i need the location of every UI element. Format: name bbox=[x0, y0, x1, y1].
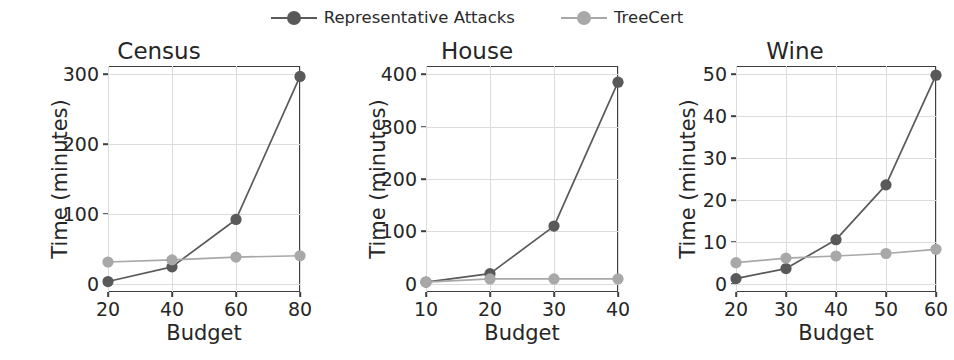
x-tick-mark bbox=[425, 292, 427, 297]
legend-dot-representative-attacks bbox=[287, 11, 301, 25]
plot-area: 010020030040010203040BudgetTime (minutes… bbox=[426, 66, 618, 292]
series-line-treecert bbox=[108, 256, 300, 262]
x-tick-mark bbox=[299, 292, 301, 297]
data-point-representative-attacks bbox=[102, 276, 113, 287]
series-line-representative-attacks bbox=[108, 76, 300, 281]
x-tick-mark bbox=[735, 292, 737, 297]
x-tick-label: 10 bbox=[414, 300, 438, 319]
series-layer bbox=[426, 66, 618, 292]
x-tick-label: 60 bbox=[224, 300, 248, 319]
x-tick-label: 30 bbox=[542, 300, 566, 319]
x-tick-mark bbox=[489, 292, 491, 297]
y-axis-label: Time (minutes) bbox=[49, 66, 71, 292]
y-tick-label: 40 bbox=[703, 107, 727, 126]
legend-marker-representative-attacks bbox=[271, 10, 317, 26]
x-tick-label: 20 bbox=[724, 300, 748, 319]
legend-item-representative-attacks: Representative Attacks bbox=[271, 10, 515, 26]
x-axis-label: Budget bbox=[736, 322, 936, 344]
data-point-treecert bbox=[230, 252, 241, 263]
chart-panel-wine: Wine 010203040502030405060BudgetTime (mi… bbox=[636, 34, 954, 360]
x-tick-mark bbox=[885, 292, 887, 297]
x-tick-label: 40 bbox=[160, 300, 184, 319]
y-tick-label: 20 bbox=[703, 190, 727, 209]
data-point-treecert bbox=[780, 253, 791, 264]
data-point-treecert bbox=[166, 254, 177, 265]
x-tick-label: 50 bbox=[874, 300, 898, 319]
data-point-representative-attacks bbox=[880, 179, 891, 190]
data-point-treecert bbox=[730, 257, 741, 268]
data-point-treecert bbox=[612, 273, 623, 284]
gridline-vertical bbox=[936, 66, 937, 292]
data-point-representative-attacks bbox=[780, 263, 791, 274]
plot-area: 010203040502030405060BudgetTime (minutes… bbox=[736, 66, 936, 292]
data-point-representative-attacks bbox=[930, 70, 941, 81]
series-layer bbox=[736, 66, 936, 292]
plot-area: 010020030020406080BudgetTime (minutes) bbox=[108, 66, 300, 292]
data-point-treecert bbox=[484, 273, 495, 284]
data-point-representative-attacks bbox=[294, 71, 305, 82]
data-point-representative-attacks bbox=[612, 77, 623, 88]
y-tick-label: 0 bbox=[715, 274, 727, 293]
x-tick-mark bbox=[107, 292, 109, 297]
series-line-representative-attacks bbox=[426, 82, 618, 282]
chart-panel-house: House 010020030040010203040BudgetTime (m… bbox=[318, 34, 636, 360]
data-point-treecert bbox=[420, 276, 431, 287]
x-tick-mark bbox=[785, 292, 787, 297]
data-point-treecert bbox=[930, 244, 941, 255]
x-tick-mark bbox=[235, 292, 237, 297]
legend-label-representative-attacks: Representative Attacks bbox=[324, 10, 515, 26]
x-tick-label: 60 bbox=[924, 300, 948, 319]
x-tick-mark bbox=[835, 292, 837, 297]
legend-dot-treecert bbox=[577, 11, 591, 25]
series-line-treecert bbox=[426, 279, 618, 282]
y-tick-label: 50 bbox=[703, 65, 727, 84]
x-tick-mark bbox=[171, 292, 173, 297]
data-point-treecert bbox=[548, 273, 559, 284]
series-line-representative-attacks bbox=[736, 75, 936, 278]
y-tick-label: 0 bbox=[405, 274, 417, 293]
data-point-representative-attacks bbox=[548, 220, 559, 231]
x-tick-mark bbox=[935, 292, 937, 297]
x-tick-label: 40 bbox=[824, 300, 848, 319]
y-axis-label: Time (minutes) bbox=[677, 66, 699, 292]
data-point-treecert bbox=[102, 256, 113, 267]
x-tick-label: 30 bbox=[774, 300, 798, 319]
x-axis-label: Budget bbox=[108, 322, 300, 344]
panel-title-census: Census bbox=[0, 38, 318, 64]
panel-title-house: House bbox=[318, 38, 636, 64]
legend-item-treecert: TreeCert bbox=[561, 10, 683, 26]
legend-marker-treecert bbox=[561, 10, 607, 26]
panel-title-wine: Wine bbox=[636, 38, 954, 64]
y-tick-label: 10 bbox=[703, 232, 727, 251]
data-point-representative-attacks bbox=[830, 234, 841, 245]
data-point-representative-attacks bbox=[730, 273, 741, 284]
chart-legend: Representative Attacks TreeCert bbox=[0, 2, 954, 34]
x-tick-label: 40 bbox=[606, 300, 630, 319]
x-tick-label: 20 bbox=[96, 300, 120, 319]
x-tick-mark bbox=[617, 292, 619, 297]
series-layer bbox=[108, 66, 300, 292]
gridline-vertical bbox=[618, 66, 619, 292]
y-tick-label: 30 bbox=[703, 149, 727, 168]
legend-label-treecert: TreeCert bbox=[614, 10, 683, 26]
data-point-treecert bbox=[830, 250, 841, 261]
figure-root: Representative Attacks TreeCert Census 0… bbox=[0, 0, 954, 360]
data-point-treecert bbox=[294, 250, 305, 261]
data-point-treecert bbox=[880, 248, 891, 259]
x-tick-mark bbox=[553, 292, 555, 297]
y-tick-label: 0 bbox=[87, 274, 99, 293]
x-tick-label: 20 bbox=[478, 300, 502, 319]
data-point-representative-attacks bbox=[230, 214, 241, 225]
x-axis-label: Budget bbox=[426, 322, 618, 344]
y-axis-label: Time (minutes) bbox=[367, 66, 389, 292]
x-tick-label: 80 bbox=[288, 300, 312, 319]
chart-panel-census: Census 010020030020406080BudgetTime (min… bbox=[0, 34, 318, 360]
